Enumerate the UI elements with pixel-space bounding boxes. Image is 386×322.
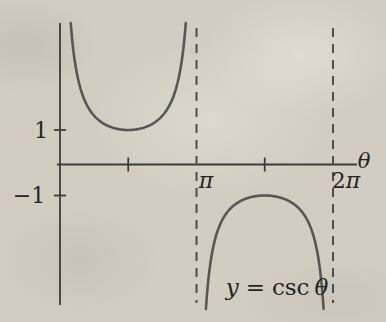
y-tick-label-negative-one: −1: [13, 185, 45, 207]
x-tick-label-two-pi: 2π: [332, 170, 360, 192]
equation-func: csc: [272, 274, 310, 300]
equation-rel: =: [246, 274, 265, 300]
csc-curve-branch-1: [71, 23, 186, 130]
x-axis-variable-label: θ: [358, 151, 371, 172]
equation-lhs: y: [226, 274, 239, 300]
y-tick-label-positive-one: 1: [34, 120, 48, 142]
equation-arg: θ: [315, 274, 329, 300]
csc-graph-figure: 1 −1 π 2π θ y=cscθ: [0, 0, 386, 322]
x-tick-label-pi: π: [199, 170, 213, 192]
two-pi-digit: 2: [332, 168, 346, 193]
equation-label: y=cscθ: [226, 276, 329, 299]
